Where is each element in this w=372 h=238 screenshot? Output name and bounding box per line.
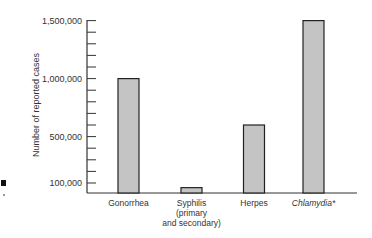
margin-dot [3, 194, 5, 196]
x-category-label: Syphilis(primaryand secondary) [162, 198, 221, 228]
y-tick-label: 500,000 [49, 132, 82, 142]
y-tick-label: 100,000 [49, 178, 82, 188]
y-tick-label: 1,000,000 [42, 74, 82, 84]
x-category-label: Herpes [240, 198, 267, 208]
bar-3 [303, 21, 324, 193]
y-axis-label: Number of reported cases [31, 53, 41, 157]
bar-2 [244, 125, 265, 193]
bar-1 [181, 188, 202, 193]
bar-chart: Number of reported cases 100,000500,0001… [0, 0, 372, 238]
margin-mark [1, 180, 6, 186]
x-category-label: Chlamydia* [292, 198, 335, 208]
y-tick-label: 1,500,000 [42, 16, 82, 26]
x-category-label: Gonorrhea [108, 198, 149, 208]
bar-0 [118, 79, 139, 193]
